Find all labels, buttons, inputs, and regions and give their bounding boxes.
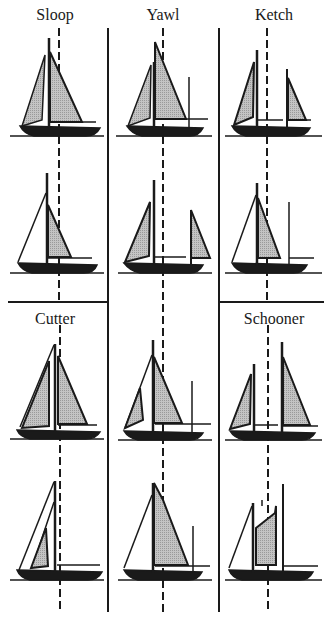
yawl-boat-4 — [118, 483, 212, 580]
sloop-boat-1 — [10, 38, 104, 136]
schooner-boat-2 — [225, 484, 322, 580]
sloop-boat-2 — [10, 173, 104, 273]
ketch-boat-2 — [225, 183, 322, 273]
cutter-boat-2 — [10, 481, 104, 580]
schooner-boat-1 — [225, 342, 322, 440]
cutter-boat-1 — [10, 344, 104, 439]
ketch-boat-1 — [225, 50, 322, 136]
sailing-rigs-diagram — [0, 0, 331, 627]
yawl-boat-2 — [118, 180, 212, 273]
yawl-boat-3 — [118, 340, 212, 440]
